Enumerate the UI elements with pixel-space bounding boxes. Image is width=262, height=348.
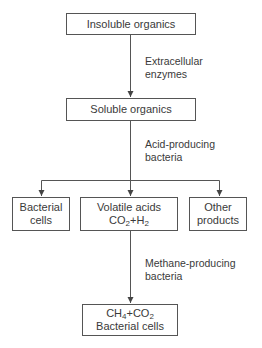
edge-label-methane-producing-bacteria: Methane-producing bacteria [145,257,235,283]
node-soluble-organics: Soluble organics [66,98,196,121]
node-bacterial-cells: Bacterial cells [12,197,70,231]
node-other-products: Other products [189,197,247,231]
connector-lines [0,0,262,348]
node-methane-products: CH4+CO2 Bacterial cells [82,304,178,336]
edge-label-extracellular-enzymes: Extracellular enzymes [145,55,203,81]
node-volatile-acids: Volatile acids CO2+H2 [80,197,178,231]
node-insoluble-organics: Insoluble organics [66,13,196,35]
node-label: Insoluble organics [87,18,176,31]
node-label: Soluble organics [90,103,171,116]
edge-label-acid-producing-bacteria: Acid-producing bacteria [145,138,215,164]
